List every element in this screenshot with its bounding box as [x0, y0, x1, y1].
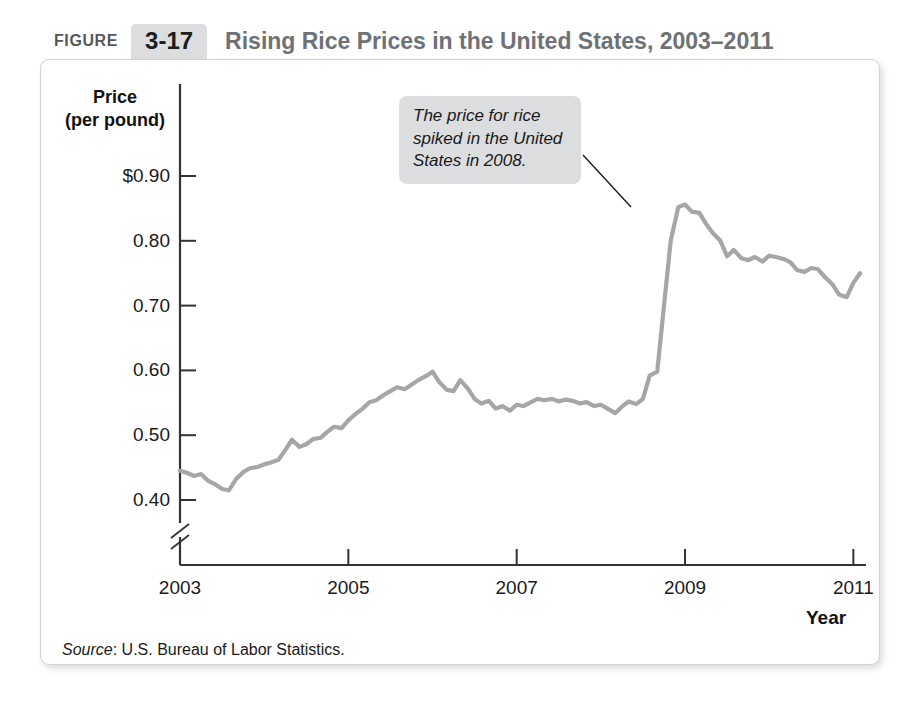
source-note: Source: U.S. Bureau of Labor Statistics. — [62, 641, 345, 659]
figure-label: FIGURE — [54, 33, 118, 49]
y-axis-title: Price (per pound) — [60, 86, 170, 132]
y-axis-title-line1: Price — [60, 86, 170, 109]
y-axis-tick-label: $0.90 — [58, 165, 170, 187]
y-axis-tick-label: 0.50 — [58, 424, 170, 446]
y-axis-tick-label: 0.70 — [58, 295, 170, 317]
x-axis-tick-label: 2005 — [327, 577, 369, 599]
source-text: : U.S. Bureau of Labor Statistics. — [113, 641, 345, 658]
source-prefix: Source — [62, 641, 113, 658]
figure-number-badge: 3-17 — [131, 24, 207, 59]
x-axis-tick-label: 2003 — [159, 577, 201, 599]
figure-title: Rising Rice Prices in the United States,… — [225, 30, 773, 53]
y-axis-tick-label: 0.40 — [58, 489, 170, 511]
x-axis-title: Year — [806, 607, 846, 629]
x-axis-tick-label: 2009 — [664, 577, 706, 599]
annotation-callout: The price for rice spiked in the United … — [399, 96, 581, 184]
y-axis-tick-label: 0.80 — [58, 230, 170, 252]
x-axis-tick-label: 2007 — [496, 577, 538, 599]
figure-header: FIGURE 3-17 Rising Rice Prices in the Un… — [0, 24, 923, 58]
y-axis-title-line2: (per pound) — [60, 109, 170, 132]
y-axis-tick-label: 0.60 — [58, 359, 170, 381]
x-axis-tick-label: 2011 — [833, 577, 874, 599]
